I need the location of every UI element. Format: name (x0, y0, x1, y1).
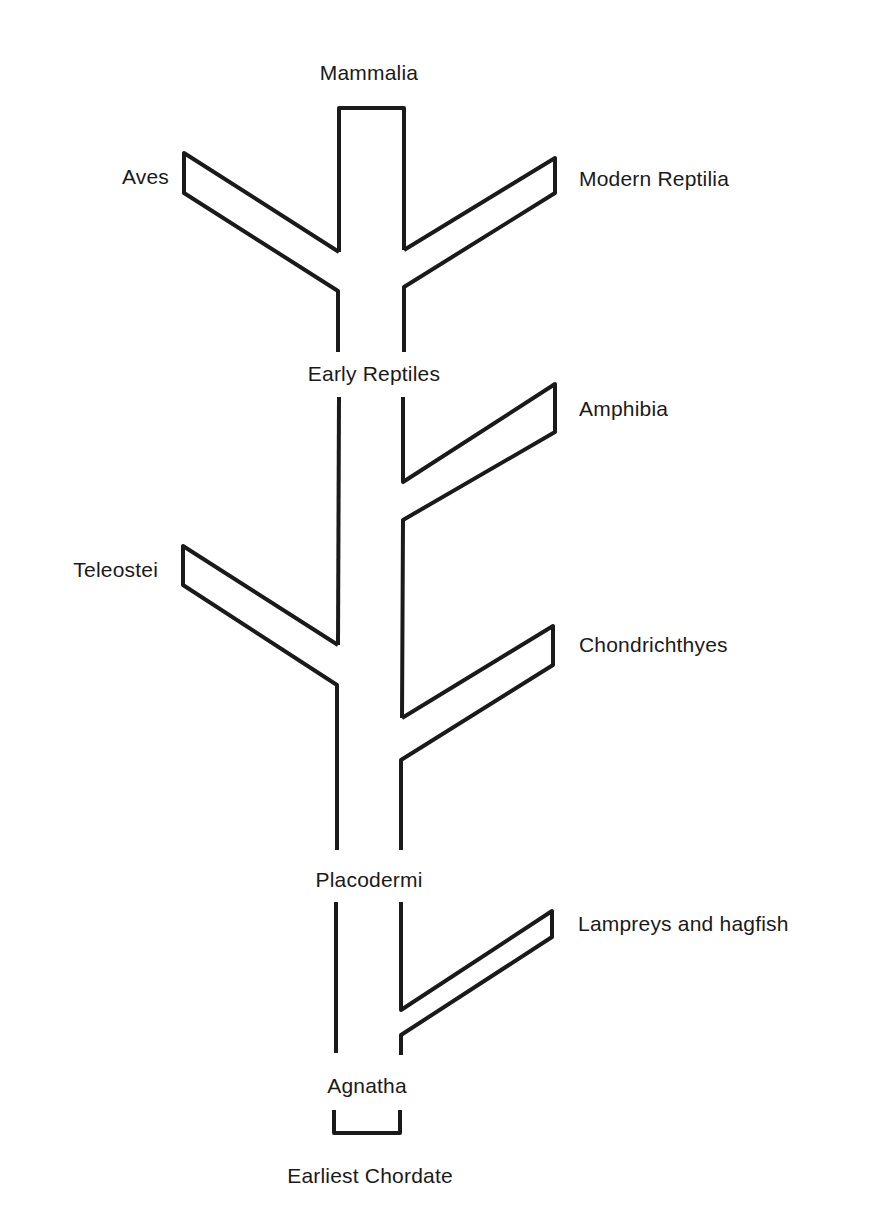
label-amphibia: Amphibia (579, 397, 668, 421)
teleostei-branch (183, 546, 338, 850)
chondrichthyes-branch (401, 626, 553, 850)
label-early-reptiles: Early Reptiles (308, 362, 440, 386)
label-lampreys-and-hagfish: Lampreys and hagfish (578, 912, 789, 936)
modern-reptilia-branch (404, 158, 555, 352)
lampreys-branch (401, 902, 552, 1055)
label-modern-reptilia: Modern Reptilia (579, 167, 729, 191)
label-mammalia: Mammalia (320, 61, 418, 85)
label-agnatha: Agnatha (327, 1074, 407, 1098)
label-chondrichthyes: Chondrichthyes (579, 633, 728, 657)
root-bracket (334, 1110, 400, 1133)
label-aves: Aves (122, 165, 169, 189)
aves-branch (184, 153, 339, 352)
aves-branch-outline (339, 108, 404, 252)
label-earliest-chordate: Earliest Chordate (287, 1164, 453, 1188)
amphibia-branch (402, 384, 555, 718)
label-placodermi: Placodermi (315, 868, 422, 892)
label-teleostei: Teleostei (73, 558, 158, 582)
trunk-left-upper (338, 397, 339, 645)
